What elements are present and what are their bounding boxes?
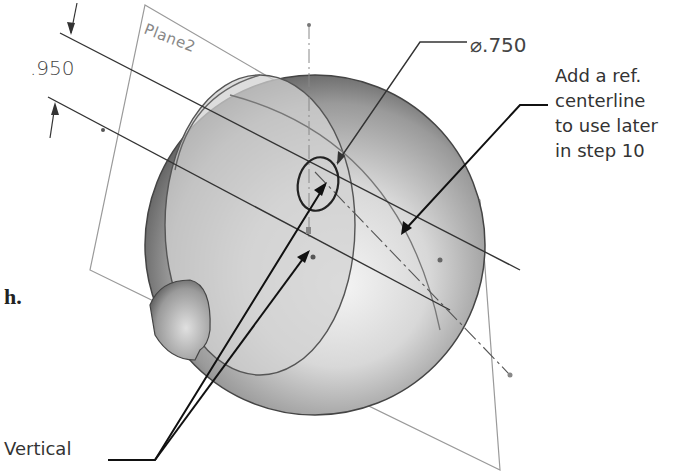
centerline-callout-note: Add a ref. centerline to use later in st… [555, 63, 658, 163]
drawing-canvas: Plane2 .950 ⌀.750 Add a ref. centerline … [0, 0, 684, 475]
step-text-fragment: h. [4, 284, 22, 310]
dimension-diameter-label: ⌀.750 [470, 33, 527, 57]
dimension-950-label: .950 [30, 56, 75, 80]
note-line: in step 10 [555, 138, 658, 163]
note-line: centerline [555, 88, 658, 113]
note-line: to use later [555, 113, 658, 138]
note-line: Add a ref. [555, 63, 658, 88]
vertical-callout-label: Vertical [4, 438, 71, 459]
hole-cut [150, 280, 210, 360]
